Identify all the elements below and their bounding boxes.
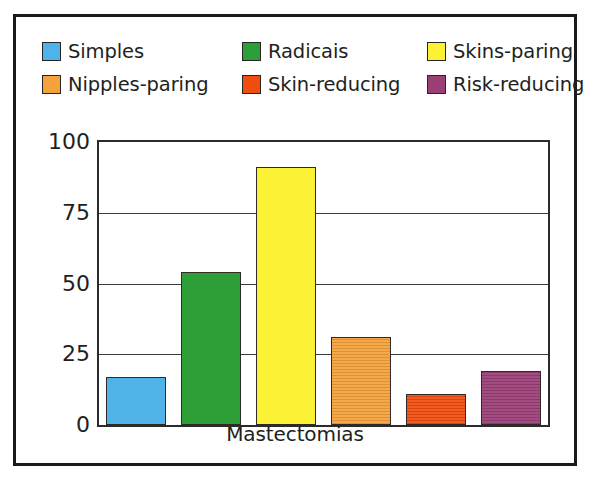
y-tick-label-75: 75 <box>62 202 90 224</box>
y-tick-label-100: 100 <box>48 131 90 153</box>
bar-skin-reducing <box>406 394 466 425</box>
y-tick-label-25: 25 <box>62 343 90 365</box>
chart-card: Simples Radicais Skins-paring Nipples-pa… <box>13 14 577 466</box>
y-tick-label-50: 50 <box>62 273 90 295</box>
gridline-75 <box>99 213 548 214</box>
bar-skins-paring <box>256 167 316 425</box>
bar-nipples-paring <box>331 337 391 425</box>
plot-wrapper: 0255075100 <box>16 17 574 463</box>
bar-radicais <box>181 272 241 425</box>
bar-simples <box>106 377 166 425</box>
bar-risk-reducing <box>481 371 541 425</box>
x-axis-label: Mastectomias <box>16 422 574 446</box>
gridline-25 <box>99 354 548 355</box>
plot-frame: 0255075100 <box>97 140 550 427</box>
gridline-50 <box>99 284 548 285</box>
plot-area: 0255075100 <box>97 126 550 423</box>
